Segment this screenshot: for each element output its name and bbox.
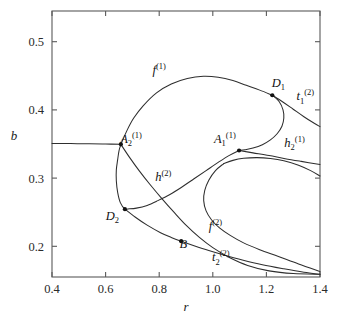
curve-f1-loop-lower	[116, 144, 239, 209]
y-tick-label: 0.3	[28, 172, 44, 186]
x-tick-label: 1.4	[312, 282, 328, 296]
x-tick-label: 1.0	[205, 282, 221, 296]
curve-label-B: B	[179, 237, 187, 251]
curve-label-f1: f(1)	[152, 61, 166, 77]
y-tick-label: 0.5	[28, 35, 44, 49]
y-axis-label: b	[11, 128, 18, 143]
curve-f1-loop-upper	[121, 76, 272, 144]
svg-text:f(2): f(2)	[209, 217, 223, 233]
curve-t2-2-branch	[125, 209, 320, 274]
x-tick-label: 0.6	[98, 282, 114, 296]
svg-text:D2: D2	[105, 209, 119, 225]
curve-label-A1_1: A1(1)	[213, 130, 236, 148]
svg-text:h(2): h(2)	[155, 168, 171, 184]
curve-label-t2_2: t2(2)	[212, 248, 230, 266]
curve-f1-loop-right	[239, 95, 284, 150]
curve-f2-upper-branch	[224, 158, 320, 176]
curve-label-D2: D2	[105, 209, 119, 225]
svg-text:t1(2): t1(2)	[296, 87, 314, 105]
y-tick-label: 0.2	[28, 240, 44, 254]
svg-text:B: B	[179, 237, 187, 251]
svg-text:h2(1): h2(1)	[284, 134, 305, 152]
x-tick-label: 0.4	[44, 282, 60, 296]
svg-text:D1: D1	[271, 76, 285, 92]
curve-label-f2: f(2)	[209, 217, 223, 233]
curve-label-h_2: h(2)	[155, 168, 171, 184]
point-marker-D2	[123, 207, 127, 211]
curve-h2-horizontal-branch	[52, 143, 121, 144]
y-tick-label: 0.4	[28, 103, 44, 117]
svg-text:A2(1): A2(1)	[119, 130, 142, 148]
x-tick-label: 0.8	[151, 282, 167, 296]
curve-label-h2_1: h2(1)	[284, 134, 305, 152]
curve-label-D1: D1	[271, 76, 285, 92]
svg-text:t2(2): t2(2)	[212, 248, 230, 266]
svg-text:A1(1): A1(1)	[213, 130, 236, 148]
curve-label-A2_1: A2(1)	[119, 130, 142, 148]
x-axis-label: r	[183, 299, 189, 314]
svg-text:f(1): f(1)	[152, 61, 166, 77]
curve-label-t1_2: t1(2)	[296, 87, 314, 105]
bifurcation-diagram: 0.40.60.81.01.21.40.20.30.40.5rbf(1)D1t1…	[0, 0, 338, 330]
point-marker-D1	[270, 93, 274, 97]
point-marker-A1_1	[237, 148, 241, 152]
x-tick-label: 1.2	[259, 282, 275, 296]
